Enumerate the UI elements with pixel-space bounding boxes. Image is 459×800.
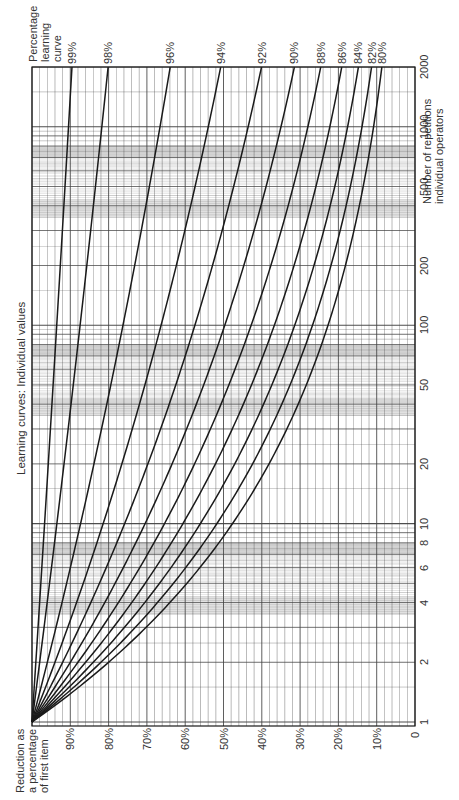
- x-tick-2000: 2000: [418, 55, 430, 79]
- x-tick-10: 10: [418, 517, 430, 529]
- y-tick-90: 90%: [64, 728, 76, 750]
- x-tick-20: 20: [418, 458, 430, 470]
- y-tick-0: 0: [409, 732, 421, 738]
- series-label-88pct: 88%: [315, 42, 327, 64]
- x-tick-6: 6: [418, 565, 430, 571]
- y-tick-70: 70%: [141, 728, 153, 750]
- y-axis-label-line-3: of first item: [38, 729, 50, 793]
- x-tick-1: 1: [418, 719, 430, 725]
- chart-title: Learning curves: Individual values: [15, 302, 27, 475]
- y-tick-80: 80%: [103, 728, 115, 750]
- y-tick-40: 40%: [256, 728, 268, 750]
- series-label-96pct: 96%: [164, 42, 176, 64]
- y-tick-10: 10%: [371, 728, 383, 750]
- y-tick-60: 60%: [179, 728, 191, 750]
- series-label-86pct: 86%: [336, 42, 348, 64]
- series-label-80pct: 80%: [376, 42, 388, 64]
- y-tick-50: 50%: [218, 728, 230, 750]
- x-tick-8: 8: [418, 540, 430, 546]
- legend-title-line-1: Percentage: [27, 6, 39, 62]
- y-axis-label-line-2: a percentage: [26, 729, 38, 793]
- x-tick-50: 50: [418, 379, 430, 391]
- legend-title-line-3: curve: [51, 6, 63, 62]
- series-label-98pct: 98%: [102, 42, 114, 64]
- x-tick-100: 100: [418, 316, 430, 334]
- series-label-99pct: 99%: [66, 42, 78, 64]
- series-label-90pct: 90%: [288, 42, 300, 64]
- y-tick-30: 30%: [294, 728, 306, 750]
- y-tick-20: 20%: [332, 728, 344, 750]
- x-tick-1000: 1000: [418, 115, 430, 139]
- series-label-94pct: 94%: [215, 42, 227, 64]
- y-axis-label: Reduction as a percentage of first item: [14, 729, 50, 793]
- learning-curve-chart: [0, 0, 459, 800]
- x-tick-200: 200: [418, 256, 430, 274]
- x-tick-500: 500: [418, 177, 430, 195]
- x-tick-2: 2: [418, 659, 430, 665]
- x-axis-label-line-2: individual operators: [433, 99, 445, 204]
- y-axis-label-line-1: Reduction as: [14, 729, 26, 793]
- series-label-84pct: 84%: [352, 42, 364, 64]
- legend-title-line-2: learning: [39, 6, 51, 62]
- series-label-92pct: 92%: [256, 42, 268, 64]
- legend-title: Percentage learning curve: [27, 6, 63, 62]
- x-tick-4: 4: [418, 599, 430, 605]
